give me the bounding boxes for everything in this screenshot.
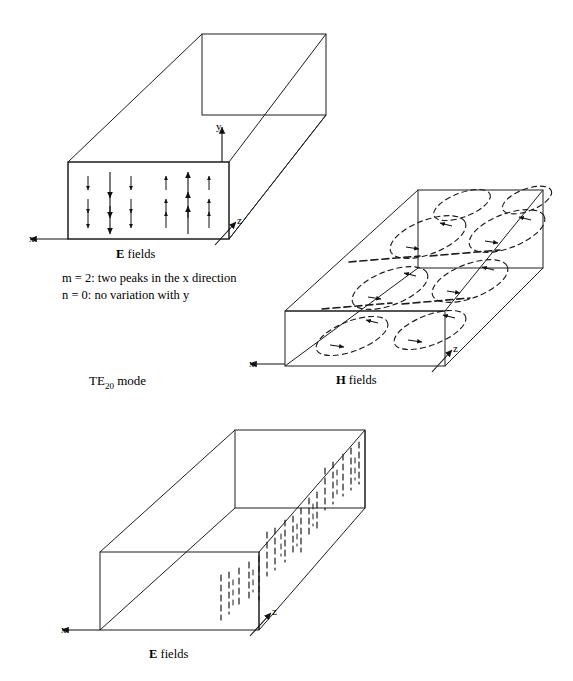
waveguide-diagram-svg <box>0 0 573 681</box>
te-mode-label: TE20 mode <box>89 373 146 392</box>
h-field-loops <box>311 180 555 363</box>
top-e-fields-caption: E fields <box>116 247 155 263</box>
h-box-edge-tl <box>285 190 418 311</box>
top-e-field-arrows <box>88 172 209 234</box>
top-axis-z-label: z <box>237 214 242 228</box>
top-e-field-box <box>68 34 326 239</box>
h-axis-z-label: z <box>453 342 458 356</box>
figure-stage: x y z E fields m = 2: two peaks in the x… <box>0 0 573 681</box>
top-box-edge-tl <box>68 34 202 162</box>
bottom-box-back-face <box>235 430 365 508</box>
bottom-box-edge-tl <box>100 430 235 552</box>
bottom-e-fields-caption: E fields <box>149 647 188 663</box>
bottom-axis-x-label: x <box>61 623 67 637</box>
top-axis-y-label: y <box>216 120 222 134</box>
h-panel-axes <box>250 350 452 372</box>
h-box-front-face <box>285 311 445 366</box>
h-box-edge-bl <box>285 268 418 366</box>
top-box-edge-dup <box>229 115 326 239</box>
h-field-nodal-lines <box>322 250 500 309</box>
bottom-box-front-face <box>100 552 259 630</box>
bottom-box-edge-bl <box>100 508 235 630</box>
note-line-1: m = 2: two peaks in the x direction <box>62 271 236 287</box>
bottom-axis-z-arrow <box>250 613 271 636</box>
note-line-2: n = 0: no variation with y <box>62 288 189 304</box>
top-box-edge-tr <box>229 34 326 162</box>
h-axis-z-arrow <box>432 350 452 372</box>
top-box-back-face <box>202 34 326 115</box>
top-box-front-face <box>68 162 229 239</box>
top-axis-x-label: x <box>29 232 35 246</box>
bottom-axis-z-label: z <box>272 605 277 619</box>
top-panel-axes <box>30 127 236 245</box>
h-box-back-face <box>418 190 543 268</box>
bottom-panel-axes <box>62 613 271 636</box>
bottom-e-field-dashes <box>221 442 359 620</box>
h-axis-x-label: x <box>249 357 255 371</box>
h-box-edge-br <box>445 268 543 366</box>
h-fields-caption: H fields <box>336 373 377 389</box>
